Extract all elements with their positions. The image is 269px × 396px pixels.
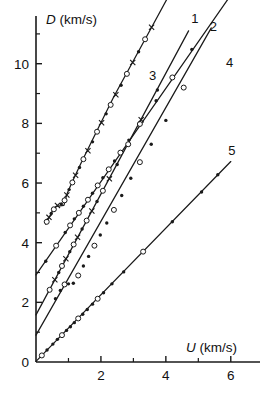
data-point-open [81, 157, 86, 162]
data-point-filled [72, 282, 75, 285]
data-point-filled [60, 202, 63, 205]
data-point-open [126, 142, 131, 147]
data-point-open [95, 183, 100, 188]
data-point-open [71, 242, 76, 247]
data-point-open [59, 333, 64, 338]
data-point-open [62, 282, 67, 287]
data-point-filled [50, 212, 53, 215]
x-tick-label: 6 [227, 368, 235, 383]
data-point-filled [64, 231, 67, 234]
data-point-filled [200, 190, 203, 193]
x-tick-label: 2 [97, 368, 105, 383]
curve-label-2: 2 [210, 19, 217, 34]
data-point-filled [119, 84, 122, 87]
y-tick-label: 4 [21, 236, 29, 251]
data-point-filled [91, 140, 94, 143]
data-point-filled [67, 282, 70, 285]
data-point-open [181, 85, 186, 90]
shock-hugoniot-chart: 0246810246 12345 D (km/s) U (km/s) [0, 0, 269, 396]
data-point-open [39, 353, 44, 358]
data-point-open [143, 37, 148, 42]
data-point-filled [73, 217, 76, 220]
data-point-filled [99, 233, 102, 236]
data-point-filled [82, 205, 85, 208]
data-point-open [85, 197, 90, 202]
x-axis-label: U (km/s) [186, 340, 237, 355]
data-point-filled [81, 313, 84, 316]
data-point-filled [120, 194, 123, 197]
data-point-open [108, 102, 113, 107]
data-point-filled [129, 177, 132, 180]
curve-label-1: 1 [191, 11, 198, 26]
data-point-open [76, 316, 81, 321]
axis-symbol: U [186, 340, 196, 355]
y-tick-label: 8 [21, 116, 29, 131]
y-axis-label: D (km/s) [46, 12, 97, 27]
data-point-open [62, 198, 67, 203]
data-point-filled [137, 50, 140, 53]
data-point-filled [150, 143, 153, 146]
data-point-open [95, 296, 100, 301]
data-point-filled [59, 289, 62, 292]
y-tick-label: 0 [21, 355, 29, 370]
data-point-open [124, 71, 129, 76]
data-point-open [92, 243, 97, 248]
data-point-filled [86, 308, 89, 311]
data-point-open [111, 207, 116, 212]
y-tick-label: 10 [14, 57, 29, 72]
x-tick-label: 4 [162, 368, 170, 383]
data-point-open [137, 121, 142, 126]
data-point-filled [65, 329, 68, 332]
data-point-filled [113, 159, 116, 162]
data-point-filled [67, 188, 70, 191]
curve-label-3: 3 [149, 68, 156, 83]
data-point-filled [216, 173, 219, 176]
data-point-filled [69, 325, 72, 328]
data-point-filled [164, 119, 167, 122]
data-point-filled [68, 250, 71, 253]
data-point-open [137, 160, 142, 165]
data-point-filled [101, 176, 104, 179]
data-point-open [95, 129, 100, 134]
data-point-filled [56, 338, 59, 341]
data-point-filled [87, 255, 90, 258]
data-point-filled [127, 138, 130, 141]
data-point-filled [82, 264, 85, 267]
data-point-filled [80, 227, 83, 230]
curve-label-4: 4 [226, 55, 233, 70]
data-point-filled [54, 297, 57, 300]
curve-label-5: 5 [228, 143, 235, 158]
data-point-open [47, 287, 52, 292]
data-point-filled [73, 321, 76, 324]
data-point-open [68, 223, 73, 228]
data-point-filled [95, 200, 98, 203]
data-point-filled [44, 259, 47, 262]
data-point-open [170, 75, 175, 80]
data-point-filled [45, 348, 48, 351]
data-point-filled [154, 99, 157, 102]
y-tick-label: 6 [21, 176, 29, 191]
data-point-filled [104, 112, 107, 115]
data-point-filled [91, 302, 94, 305]
data-point-open [76, 273, 81, 278]
data-point-filled [51, 342, 54, 345]
data-point-filled [190, 48, 193, 51]
axis-unit: (km/s) [56, 12, 97, 27]
data-point-filled [156, 88, 159, 91]
data-point-open [54, 243, 59, 248]
axis-symbol: D [46, 12, 56, 27]
data-point-filled [115, 163, 118, 166]
data-point-filled [171, 220, 174, 223]
data-point-open [76, 210, 81, 215]
axis-unit: (km/s) [196, 340, 237, 355]
data-point-filled [91, 191, 94, 194]
data-point-filled [78, 166, 81, 169]
data-point-filled [105, 221, 108, 224]
data-point-filled [110, 282, 113, 285]
data-point-filled [102, 291, 105, 294]
data-point-open [84, 218, 89, 223]
data-point-open [118, 150, 123, 155]
data-point-open [100, 188, 105, 193]
data-point-open [59, 263, 64, 268]
data-point-filled [57, 271, 60, 274]
